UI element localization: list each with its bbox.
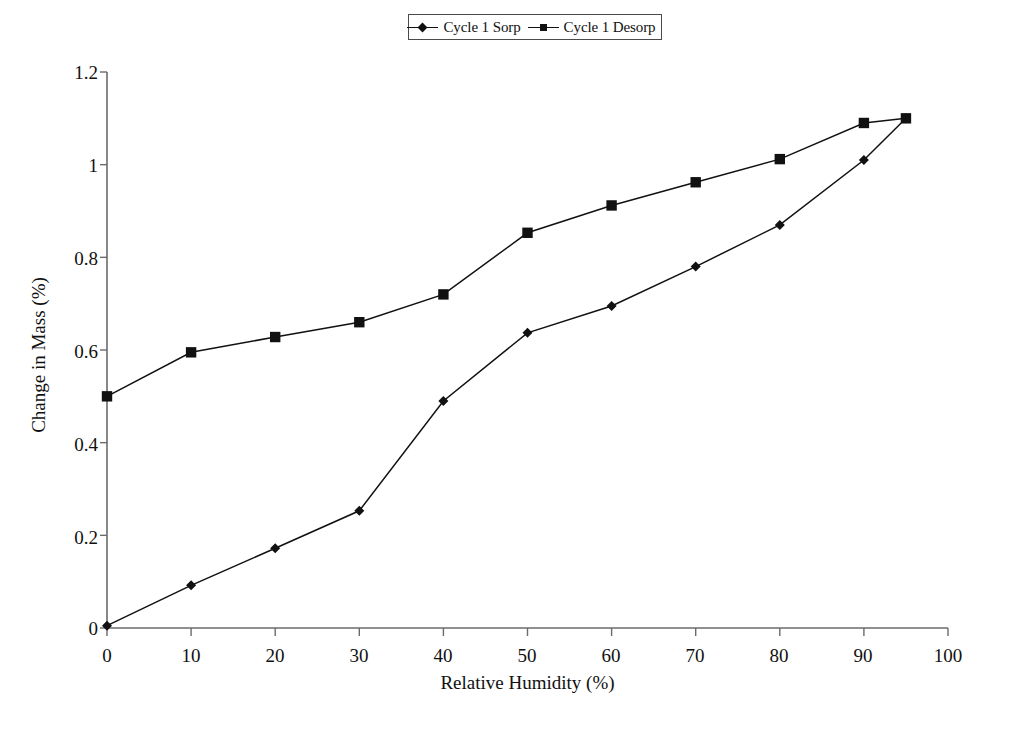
diamond-marker-icon bbox=[691, 262, 701, 272]
square-marker-icon bbox=[775, 154, 785, 164]
y-axis-ticks bbox=[100, 72, 107, 628]
square-marker-icon bbox=[522, 228, 532, 238]
diamond-marker-icon bbox=[102, 621, 112, 631]
axis-lines bbox=[107, 72, 948, 628]
diamond-marker-icon bbox=[270, 543, 280, 553]
square-marker-icon bbox=[901, 113, 911, 123]
plot-area bbox=[0, 0, 1010, 745]
square-marker-icon bbox=[606, 200, 616, 210]
square-marker-icon bbox=[691, 177, 701, 187]
series-desorp bbox=[102, 113, 911, 401]
series-line bbox=[107, 118, 906, 396]
diamond-marker-icon bbox=[186, 580, 196, 590]
square-marker-icon bbox=[186, 347, 196, 357]
data-series-layer bbox=[102, 113, 911, 631]
square-marker-icon bbox=[438, 289, 448, 299]
square-marker-icon bbox=[270, 332, 280, 342]
diamond-marker-icon bbox=[607, 301, 617, 311]
chart-figure: Cycle 1 Sorp Cycle 1 Desorp Change in Ma… bbox=[0, 0, 1010, 745]
square-marker-icon bbox=[859, 118, 869, 128]
square-marker-icon bbox=[354, 317, 364, 327]
square-marker-icon bbox=[102, 391, 112, 401]
series-sorp bbox=[102, 113, 911, 630]
series-line bbox=[107, 118, 906, 625]
x-axis-ticks bbox=[107, 628, 948, 636]
